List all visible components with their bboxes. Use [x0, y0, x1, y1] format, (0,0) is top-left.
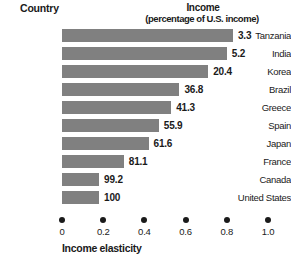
bar	[62, 29, 233, 42]
bar-track: 55.9	[62, 119, 291, 132]
bar-row: Japan61.6	[0, 137, 291, 155]
bar-track: 81.1	[62, 155, 291, 168]
bar-row: India5.2	[0, 47, 291, 65]
x-axis-tick-dot	[224, 217, 230, 223]
bar-track: 36.8	[62, 83, 291, 96]
bar	[62, 119, 159, 132]
bar-value-label: 81.1	[129, 155, 148, 168]
bar	[62, 191, 99, 204]
bar-row-list: Tanzania3.3India5.2Korea20.4Brazil36.8Gr…	[0, 29, 291, 209]
bar	[62, 173, 99, 186]
x-axis-tick-dot	[59, 217, 65, 223]
column-header-country: Country	[20, 2, 59, 14]
x-axis-tick-label: 0	[42, 226, 82, 237]
bar-row: Korea20.4	[0, 65, 291, 83]
bar-track: 100	[62, 191, 291, 204]
bar-value-label: 20.4	[213, 65, 232, 78]
bar	[62, 47, 227, 60]
income-elasticity-chart: Country Income (percentage of U.S. incom…	[0, 0, 291, 261]
x-axis-tick-label: 0.4	[124, 226, 164, 237]
bar-row: United States100	[0, 191, 291, 209]
bar-row: Greece41.3	[0, 101, 291, 119]
bar-value-label: 36.8	[184, 83, 203, 96]
bar-value-label: 5.2	[232, 47, 245, 60]
bar	[62, 155, 124, 168]
bar-value-label: 99.2	[104, 173, 123, 186]
bar-track: 20.4	[62, 65, 291, 78]
bar-row: Spain55.9	[0, 119, 291, 137]
bar	[62, 65, 208, 78]
bar-row: Canada99.2	[0, 173, 291, 191]
x-axis-tick-dot	[141, 217, 147, 223]
x-axis-tick-label: 0.6	[166, 226, 206, 237]
bar-track: 41.3	[62, 101, 291, 114]
bar-value-label: 41.3	[176, 101, 195, 114]
bar-value-label: 3.3	[238, 29, 251, 42]
bar-row: France81.1	[0, 155, 291, 173]
x-axis-tick-dot	[183, 217, 189, 223]
bar	[62, 83, 179, 96]
bar-value-label: 55.9	[164, 119, 183, 132]
x-axis: 00.20.40.60.81.0 Income elasticity	[0, 211, 291, 261]
x-axis-tick-label: 0.2	[83, 226, 123, 237]
column-header-income-subtitle: (percentage of U.S. income)	[118, 13, 286, 24]
bar-value-label: 100	[104, 191, 120, 204]
bar-value-label: 61.6	[154, 137, 173, 150]
bar-row: Tanzania3.3	[0, 29, 291, 47]
x-axis-tick-dot	[100, 217, 106, 223]
x-axis-tick-label: 1.0	[248, 226, 288, 237]
bar	[62, 137, 149, 150]
x-axis-title: Income elasticity	[62, 242, 142, 254]
column-header-income: Income	[125, 2, 281, 13]
bar-track: 3.3	[62, 29, 291, 42]
bar	[62, 101, 171, 114]
x-axis-tick-dot	[265, 217, 271, 223]
bar-row: Brazil36.8	[0, 83, 291, 101]
bar-track: 99.2	[62, 173, 291, 186]
x-axis-tick-label: 0.8	[207, 226, 247, 237]
bar-track: 5.2	[62, 47, 291, 60]
bar-track: 61.6	[62, 137, 291, 150]
